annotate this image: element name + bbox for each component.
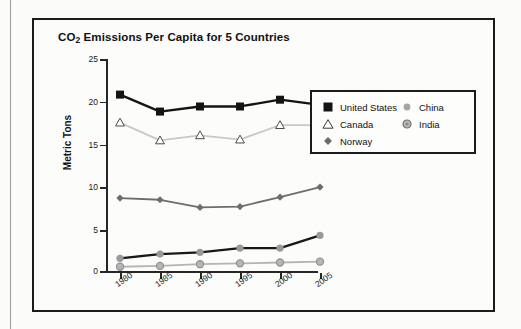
ringed-circle-icon xyxy=(400,117,414,131)
title-prefix: CO xyxy=(58,31,75,43)
legend-label-canada: Canada xyxy=(340,119,373,130)
plot-area: Metric Tons 25 20 15 10 5 0 1980 1985 19… xyxy=(74,59,326,293)
legend-label-norway: Norway xyxy=(340,136,372,147)
filled-circle-small-icon xyxy=(400,100,414,114)
series-norway xyxy=(116,183,323,211)
legend-column-right: China India xyxy=(400,99,444,133)
title-rest: Emissions Per Capita for 5 Countries xyxy=(80,31,289,43)
page-edge-rule xyxy=(10,0,11,329)
legend-entry-norway: Norway xyxy=(321,133,397,149)
chart-container: CO2 Emissions Per Capita for 5 Countries… xyxy=(32,18,495,312)
legend-label-united-states: United States xyxy=(340,102,397,113)
series-layer xyxy=(74,59,326,293)
series-india xyxy=(116,258,323,270)
legend-entry-canada: Canada xyxy=(321,116,397,132)
legend-label-china: China xyxy=(419,102,444,113)
y-axis-title: Metric Tons xyxy=(62,115,73,170)
legend-entry-china: China xyxy=(400,99,444,115)
chart-title: CO2 Emissions Per Capita for 5 Countries xyxy=(58,31,290,43)
series-united-states xyxy=(116,91,324,116)
legend-column-left: United States Canada Norway xyxy=(321,99,397,150)
title-subscript: 2 xyxy=(75,35,80,45)
legend-label-india: India xyxy=(419,119,440,130)
filled-diamond-icon xyxy=(321,134,335,148)
legend-entry-india: India xyxy=(400,116,444,132)
chart-legend: United States Canada Norway xyxy=(310,90,476,154)
legend-entry-united-states: United States xyxy=(321,99,397,115)
series-china xyxy=(116,232,323,262)
filled-square-icon xyxy=(321,100,335,114)
open-triangle-icon xyxy=(321,117,335,131)
chart-screenshot: CO2 Emissions Per Capita for 5 Countries… xyxy=(0,0,521,329)
series-canada xyxy=(116,118,325,144)
